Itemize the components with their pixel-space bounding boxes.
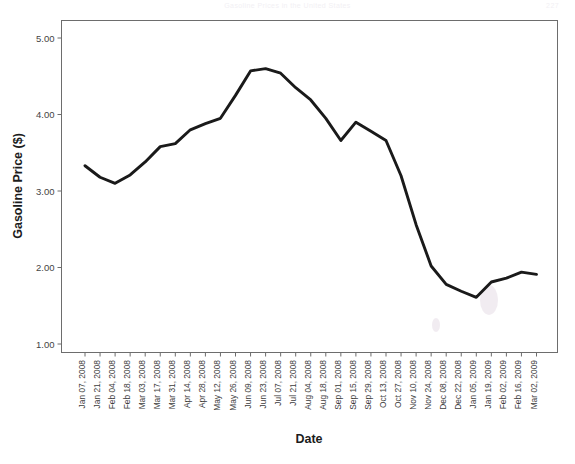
y-axis-ticks [58,38,62,344]
y-tick-label: 2.00 [36,262,55,273]
x-tick-label: Jul 07, 2008 [273,360,283,406]
gasoline-price-chart: Gasoline Prices in the United States 227… [0,0,575,464]
gasoline-price-line [85,69,537,298]
x-tick-label: Feb 02, 2009 [498,360,508,410]
x-tick-label: May 12, 2008 [212,360,222,411]
x-tick-label: Feb 04, 2008 [107,360,117,410]
x-tick-label: Aug 18, 2008 [318,360,328,410]
x-tick-label: Sep 01, 2008 [333,360,343,410]
x-tick-label: Mar 17, 2008 [152,360,162,410]
x-tick-label: Oct 13, 2008 [378,360,388,408]
y-tick-label: 1.00 [36,339,55,350]
x-tick-label: Nov 10, 2008 [408,360,418,410]
y-tick-label: 4.00 [36,109,55,120]
x-axis-ticks [85,353,537,357]
x-tick-label: Dec 22, 2008 [453,360,463,410]
x-tick-label: Mar 03, 2008 [137,360,147,410]
chart-canvas: 1.002.003.004.005.00 Jan 07, 2008Jan 21,… [0,0,575,464]
x-tick-label: Jul 21, 2008 [288,360,298,406]
x-tick-label: Jan 19, 2009 [483,360,493,409]
x-tick-label: Mar 02, 2009 [529,360,539,410]
x-tick-label: Mar 31, 2008 [167,360,177,410]
y-axis-title: Gasoline Price ($) [11,133,25,239]
x-tick-label: Jan 05, 2009 [468,360,478,409]
scan-smudge-2 [432,318,440,332]
x-tick-label: Aug 04, 2008 [303,360,313,410]
x-axis-title: Date [295,432,322,446]
x-tick-label: Sep 29, 2008 [363,360,373,410]
x-tick-label: Feb 16, 2009 [513,360,523,410]
y-axis-tick-labels: 1.002.003.004.005.00 [36,33,55,350]
x-tick-label: Apr 14, 2008 [182,360,192,408]
x-tick-label: Jun 09, 2008 [243,360,253,409]
x-axis-tick-labels: Jan 07, 2008Jan 21, 2008Feb 04, 2008Feb … [77,360,539,411]
x-tick-label: Sep 15, 2008 [348,360,358,410]
x-tick-label: Jan 21, 2008 [92,360,102,409]
x-tick-label: May 26, 2008 [228,360,238,411]
x-tick-label: Jan 07, 2008 [77,360,87,409]
y-tick-label: 5.00 [36,33,55,44]
y-tick-label: 3.00 [36,186,55,197]
x-tick-label: Jun 23, 2008 [258,360,268,409]
x-tick-label: Nov 24, 2008 [423,360,433,410]
x-tick-label: Apr 28, 2008 [197,360,207,408]
x-tick-label: Feb 18, 2008 [122,360,132,410]
x-tick-label: Oct 27, 2008 [393,360,403,408]
x-tick-label: Dec 08, 2008 [438,360,448,410]
